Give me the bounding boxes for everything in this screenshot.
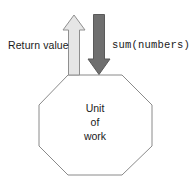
unit-of-work-line-2: of — [58, 115, 132, 129]
diagram-canvas: Return value sum(numbers) Unit of work — [0, 0, 193, 184]
unit-of-work-label: Unit of work — [58, 101, 132, 143]
return-value-label: Return value — [8, 39, 69, 51]
unit-of-work-line-3: work — [58, 129, 132, 143]
sum-numbers-arrow — [88, 15, 110, 75]
unit-of-work-line-1: Unit — [58, 101, 132, 115]
diagram-graphics — [0, 0, 193, 184]
sum-numbers-label: sum(numbers) — [112, 39, 190, 51]
